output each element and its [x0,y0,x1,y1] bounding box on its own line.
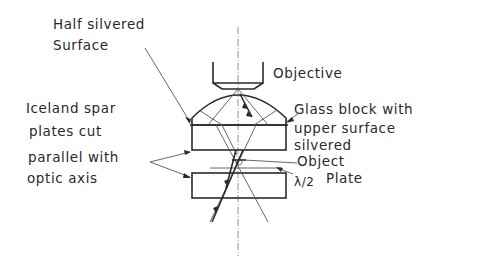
label-half-wave-symbol: λ/2 [294,175,315,189]
label-optic-axis: optic axis [27,170,98,186]
iceland-spar-plate-lower [192,173,286,198]
label-glass-block: Glass block with [294,101,413,117]
glass-block [190,95,288,125]
label-iceland-spar: Iceland spar [26,100,116,116]
label-plates-cut: plates cut [29,123,102,139]
label-upper-surface: upper surface [294,120,396,136]
iceland-spar-plate-upper [192,125,286,150]
label-silvered: silvered [294,137,352,153]
label-surface: Surface [53,37,109,53]
label-half-silvered: Half silvered [53,16,145,32]
label-object: Object [297,153,345,169]
label-objective: Objective [273,65,342,81]
label-parallel-with: parallel with [28,149,119,165]
microscope-interference-diagram: Half silvered Surface Objective Iceland … [0,0,498,262]
label-plate: Plate [326,170,363,186]
